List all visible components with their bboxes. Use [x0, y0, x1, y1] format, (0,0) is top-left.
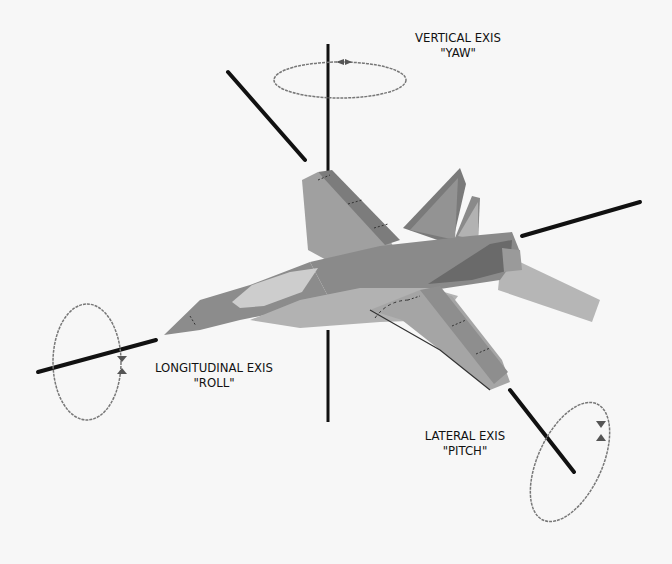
longitudinal-axis-label: LONGITUDINAL EXIS "ROLL" — [128, 360, 300, 390]
longitudinal-axis-name: LONGITUDINAL EXIS — [128, 360, 300, 375]
vertical-axis-name: VERTICAL EXIS — [394, 30, 522, 45]
yaw-motion-label: "YAW" — [394, 45, 522, 60]
lateral-axis-label: LATERAL EXIS "PITCH" — [400, 428, 530, 458]
aircraft-axes-diagram — [0, 0, 672, 564]
roll-motion-label: "ROLL" — [128, 375, 300, 390]
vertical-axis-label: VERTICAL EXIS "YAW" — [394, 30, 522, 60]
pitch-motion-label: "PITCH" — [400, 443, 530, 458]
lateral-axis-name: LATERAL EXIS — [400, 428, 530, 443]
